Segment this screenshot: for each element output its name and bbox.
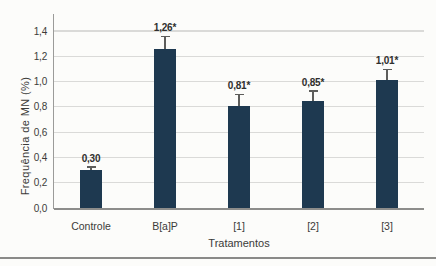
category-label: Controle [51, 220, 131, 232]
error-bar-whisker [238, 95, 240, 105]
x-axis-title: Tratamentos [54, 237, 424, 249]
error-bar-cap [161, 36, 170, 38]
bar [302, 101, 324, 208]
value-label: 1,01* [355, 55, 419, 66]
error-bar-whisker [386, 70, 388, 80]
category-label: [3] [347, 220, 427, 232]
value-label: 0,81* [207, 80, 271, 91]
value-label: 0,30 [59, 153, 123, 164]
error-bar-whisker [312, 92, 314, 101]
y-tick-label: 1,4 [9, 26, 47, 37]
bar [154, 49, 176, 208]
value-label: 1,26* [133, 22, 197, 33]
y-tick-label: 0,0 [9, 203, 47, 214]
category-label: [2] [273, 220, 353, 232]
x-axis-line [54, 208, 424, 210]
error-bar-cap [309, 90, 318, 92]
value-label: 0,85* [281, 77, 345, 88]
y-tick-label: 1,0 [9, 76, 47, 87]
y-tick-label: 0,6 [9, 127, 47, 138]
gridline [54, 30, 424, 31]
category-label: B[a]P [125, 220, 205, 232]
bar [80, 170, 102, 208]
error-bar-cap [383, 69, 392, 71]
plot-area: 0,301,26*0,81*0,85*1,01* [54, 31, 424, 208]
error-bar-whisker [90, 168, 92, 171]
y-tick-label: 0,4 [9, 152, 47, 163]
y-tick-label: 0,2 [9, 177, 47, 188]
y-tick-label: 1,2 [9, 51, 47, 62]
bar [376, 80, 398, 208]
category-label: [1] [199, 220, 279, 232]
bar [228, 106, 250, 208]
error-bar-cap [87, 166, 96, 168]
error-bar-cap [235, 94, 244, 96]
page-rule-line [0, 257, 436, 259]
y-tick-label: 0,8 [9, 101, 47, 112]
bar-chart: Frequência de MN (%) 0,00,20,40,60,81,01… [0, 0, 436, 266]
scanned-figure-page: Frequência de MN (%) 0,00,20,40,60,81,01… [0, 0, 436, 266]
error-bar-whisker [164, 37, 166, 48]
